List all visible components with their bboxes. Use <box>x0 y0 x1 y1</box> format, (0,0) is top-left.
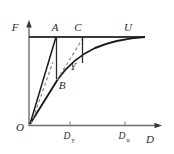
y-axis-label: F <box>11 21 19 33</box>
x-tick-label-dy-sub: y <box>71 136 75 143</box>
point-label-b: B <box>59 79 66 91</box>
x-tick-label-dy-main: D <box>63 131 71 141</box>
force-displacement-figure: F D O A B C U Y D y D u <box>0 0 174 154</box>
x-axis-label: D <box>145 133 154 145</box>
x-tick-label-du-sub: u <box>126 136 130 143</box>
origin-label: O <box>16 121 24 133</box>
point-label-u: U <box>124 21 133 33</box>
backbone-curve <box>30 37 145 124</box>
x-tick-label-du: D u <box>118 131 131 143</box>
point-label-y: Y <box>70 60 78 72</box>
x-axis <box>29 123 162 129</box>
point-label-c: C <box>74 21 82 33</box>
point-label-a: A <box>51 21 59 33</box>
secant-dashed-BC <box>57 38 83 80</box>
y-axis <box>26 20 32 126</box>
elastic-line-OA <box>30 37 56 124</box>
x-tick-label-du-main: D <box>118 131 126 141</box>
x-tick-label-dy: D y <box>63 131 76 143</box>
